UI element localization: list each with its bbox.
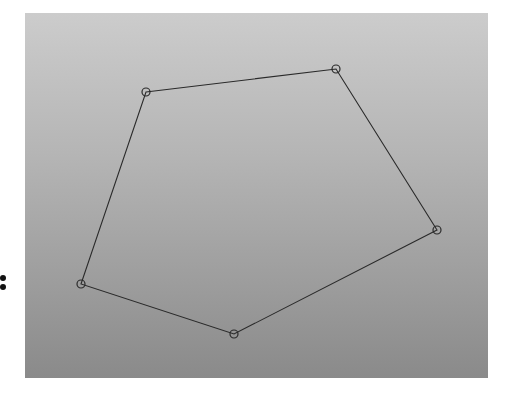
drawing-canvas[interactable] [25,13,488,378]
vertex-handles[interactable] [77,65,441,338]
polygon-diagram [25,13,488,378]
pentagon-outline [81,69,437,334]
colon-dot-top [0,275,6,281]
colon-glyph [0,273,8,293]
colon-dot-bottom [0,284,6,290]
